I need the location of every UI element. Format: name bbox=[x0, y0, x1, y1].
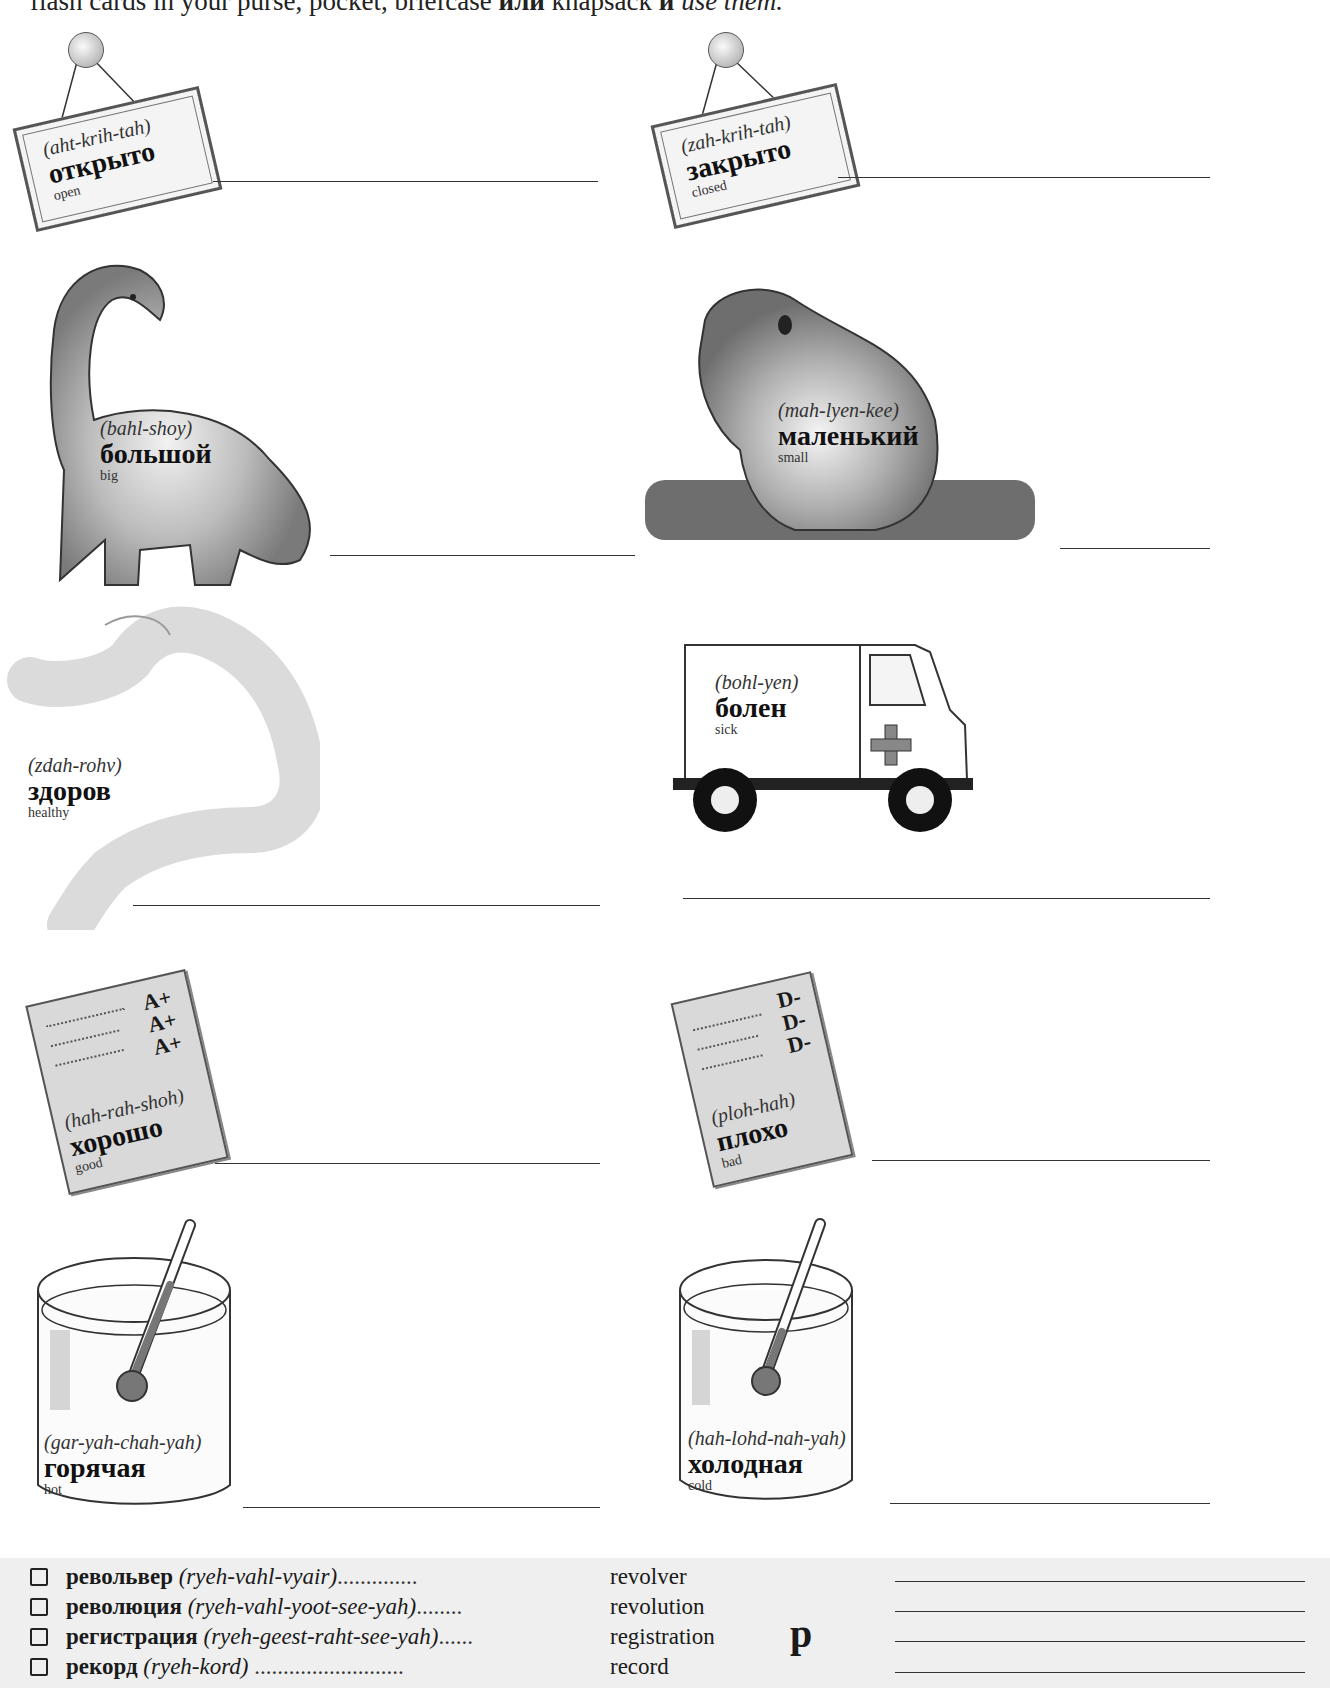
report-card: D- D- D- (ploh-hah) плохо bad bbox=[671, 971, 854, 1188]
intro-text-part: knapsack bbox=[545, 0, 659, 16]
answer-line[interactable] bbox=[872, 1160, 1210, 1161]
vocab-item: рекорд (ryeh-kord) .....................… bbox=[30, 1654, 404, 1684]
russian-word: здоров bbox=[28, 776, 122, 805]
section-letter: р bbox=[790, 1610, 812, 1657]
leader-dots: ...... bbox=[438, 1624, 473, 1649]
word-label: (hah-lohd-nah-yah) холодная cold bbox=[688, 1428, 846, 1494]
leader-dots: ........ bbox=[416, 1594, 462, 1619]
vocab-pronunciation: (ryeh-vahl-vyair) bbox=[179, 1564, 337, 1589]
answer-line[interactable] bbox=[683, 898, 1210, 899]
vocab-answer-line[interactable] bbox=[895, 1581, 1305, 1582]
answer-line[interactable] bbox=[215, 1163, 600, 1164]
word-label: (mah-lyen-kee) маленький small bbox=[778, 400, 919, 466]
vocab-meaning: record bbox=[610, 1654, 669, 1680]
pronunciation: (mah-lyen-kee) bbox=[778, 400, 919, 421]
vocab-pronunciation: (ryeh-vahl-yoot-see-yah) bbox=[188, 1594, 417, 1619]
report-card: A+ A+ A+ (hah-rah-shoh) хорошо good bbox=[25, 969, 228, 1195]
vocab-answer-line[interactable] bbox=[895, 1672, 1305, 1673]
word-label: (aht-krih-tah) открыто open bbox=[41, 115, 163, 204]
word-label: (bohl-yen) болен sick bbox=[715, 672, 798, 738]
english-meaning: healthy bbox=[28, 806, 122, 821]
pin-icon bbox=[68, 32, 104, 68]
word-label: (zah-krih-tah) закрыто closed bbox=[679, 112, 803, 202]
word-label: (hah-rah-shoh) хорошо good bbox=[62, 1085, 196, 1177]
intro-bold-word: и bbox=[659, 0, 675, 16]
pronunciation: (bohl-yen) bbox=[715, 672, 798, 693]
vocab-item: регистрация (ryeh-geest-raht-see-yah)...… bbox=[30, 1624, 473, 1654]
vocab-word: регистрация bbox=[66, 1624, 198, 1649]
english-meaning: sick bbox=[715, 723, 798, 738]
vocab-word: рекорд bbox=[66, 1654, 138, 1679]
answer-line[interactable] bbox=[213, 181, 598, 182]
english-meaning: big bbox=[100, 469, 212, 484]
grades: A+ A+ A+ bbox=[141, 985, 184, 1059]
answer-line[interactable] bbox=[243, 1507, 600, 1508]
pronunciation: (hah-lohd-nah-yah) bbox=[688, 1428, 846, 1449]
pronunciation: (bahl-shoy) bbox=[100, 418, 212, 439]
word-label: (ploh-hah) плохо bad bbox=[709, 1088, 807, 1172]
grade: A+ bbox=[151, 1030, 184, 1059]
vocab-meaning: revolver bbox=[610, 1564, 687, 1590]
leader-dots: .......................... bbox=[254, 1654, 404, 1679]
word-label: (zdah-rohv) здоров healthy bbox=[28, 755, 122, 821]
intro-italic: use them. bbox=[674, 0, 783, 16]
intro-text-part: flash cards in your purse, pocket, brief… bbox=[30, 0, 499, 16]
vocab-pronunciation: (ryeh-geest-raht-see-yah) bbox=[203, 1624, 438, 1649]
vocab-item: револьвер (ryeh-vahl-vyair).............… bbox=[30, 1564, 418, 1594]
grade: D- bbox=[785, 1030, 813, 1058]
vocab-meaning: revolution bbox=[610, 1594, 705, 1620]
russian-word: болен bbox=[715, 693, 798, 722]
russian-word: холодная bbox=[688, 1449, 846, 1478]
ambulance-icon bbox=[655, 630, 975, 840]
vocab-answer-line[interactable] bbox=[895, 1641, 1305, 1642]
russian-word: большой bbox=[100, 439, 212, 468]
pronunciation: (zdah-rohv) bbox=[28, 755, 122, 776]
scribble bbox=[702, 1054, 763, 1070]
vocab-pronunciation: (ryeh-kord) bbox=[143, 1654, 248, 1679]
russian-word: маленький bbox=[778, 421, 919, 450]
checkbox[interactable] bbox=[30, 1598, 48, 1616]
vocab-meaning: registration bbox=[610, 1624, 715, 1650]
grades: D- D- D- bbox=[775, 985, 813, 1058]
vocab-word: революция bbox=[66, 1594, 182, 1619]
scribble bbox=[55, 1049, 124, 1067]
answer-line[interactable] bbox=[330, 555, 635, 556]
vocab-item: революция (ryeh-vahl-yoot-see-yah)......… bbox=[30, 1594, 462, 1624]
scribble bbox=[697, 1035, 758, 1051]
answer-line[interactable] bbox=[890, 1503, 1210, 1504]
scribble bbox=[46, 1008, 124, 1028]
pronunciation: (gar-yah-chah-yah) bbox=[44, 1432, 201, 1453]
scribble bbox=[693, 1014, 762, 1032]
pin-icon bbox=[708, 32, 744, 68]
intro-text: flash cards in your purse, pocket, brief… bbox=[30, 0, 783, 17]
checkbox[interactable] bbox=[30, 1628, 48, 1646]
word-label: (gar-yah-chah-yah) горячая hot bbox=[44, 1432, 201, 1498]
word-label: (bahl-shoy) большой big bbox=[100, 418, 212, 484]
english-meaning: hot bbox=[44, 1483, 201, 1498]
checkbox[interactable] bbox=[30, 1658, 48, 1676]
answer-line[interactable] bbox=[1060, 548, 1210, 549]
intro-bold-word: или bbox=[499, 0, 545, 16]
vocab-word: револьвер bbox=[66, 1564, 173, 1589]
english-meaning: cold bbox=[688, 1479, 846, 1494]
leader-dots: .............. bbox=[337, 1564, 418, 1589]
answer-line[interactable] bbox=[838, 177, 1210, 178]
scribble bbox=[51, 1029, 120, 1047]
russian-word: горячая bbox=[44, 1453, 201, 1482]
answer-line[interactable] bbox=[133, 905, 600, 906]
english-meaning: small bbox=[778, 451, 919, 466]
vocab-answer-line[interactable] bbox=[895, 1611, 1305, 1612]
checkbox[interactable] bbox=[30, 1568, 48, 1586]
